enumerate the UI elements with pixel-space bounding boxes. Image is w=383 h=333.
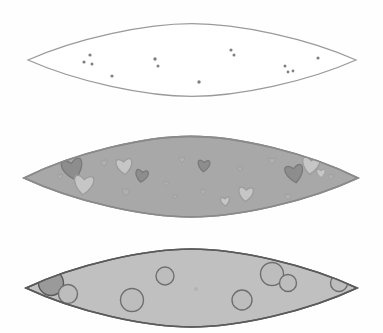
dot-inclusion — [91, 63, 94, 66]
circle-inclusion — [59, 285, 78, 304]
dot-inclusion — [287, 71, 290, 74]
circle-inclusion — [280, 275, 297, 292]
circle-inclusion — [156, 267, 174, 285]
dot-inclusion — [316, 56, 319, 59]
dot-inclusion — [153, 57, 156, 60]
dot-inclusion — [88, 53, 91, 56]
dot-inclusion — [292, 70, 295, 73]
dot-inclusion — [229, 48, 232, 51]
dot-inclusion — [284, 65, 287, 68]
dot-inclusion — [157, 65, 160, 68]
circle-inclusion — [194, 287, 198, 291]
figure-root: Three stacked lens-shaped cross-sections… — [0, 0, 383, 333]
dot-inclusion — [82, 60, 85, 63]
dot-inclusion — [110, 74, 113, 77]
dot-inclusion — [197, 80, 200, 83]
lens-diagram-svg: Three stacked lens-shaped cross-sections… — [0, 0, 383, 333]
dot-inclusion — [233, 54, 236, 57]
circle-inclusion — [232, 290, 252, 310]
circle-inclusion — [121, 289, 144, 312]
